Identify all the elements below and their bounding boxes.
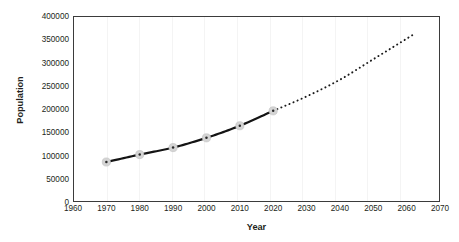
y-axis-title: Population bbox=[15, 50, 25, 150]
data-point-center bbox=[138, 153, 141, 156]
population-projection-chart: 400000 350000 300000 250000 200000 15000… bbox=[0, 0, 459, 242]
x-axis-title: Year bbox=[73, 222, 440, 232]
data-point-center bbox=[205, 137, 208, 140]
data-point-center bbox=[172, 146, 175, 149]
data-point-center bbox=[239, 124, 242, 127]
series-layer bbox=[0, 0, 459, 242]
series-projected-line bbox=[273, 35, 413, 111]
data-point-center bbox=[272, 110, 275, 113]
series-observed-line bbox=[106, 111, 273, 162]
data-point-center bbox=[105, 161, 108, 164]
